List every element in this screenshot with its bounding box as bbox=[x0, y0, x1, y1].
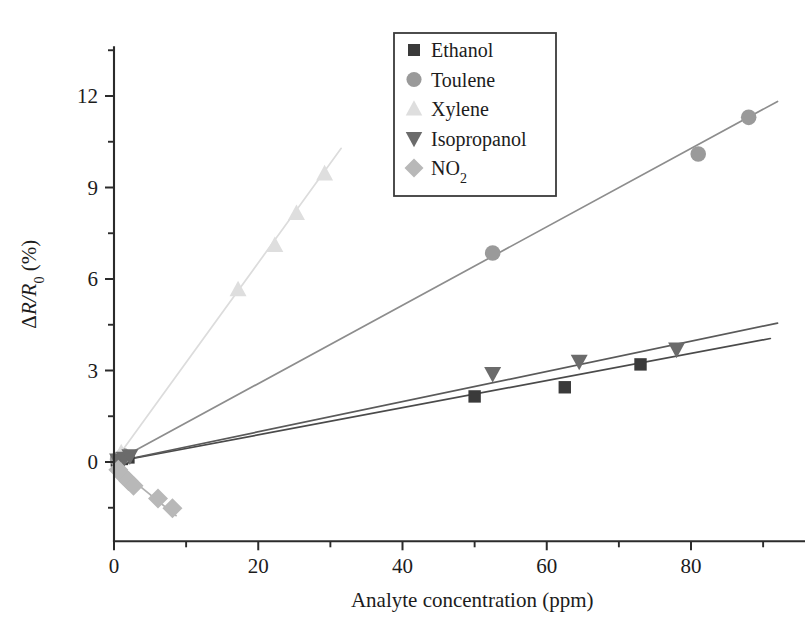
legend-label: Ethanol bbox=[431, 39, 494, 61]
series-isopropanol bbox=[109, 343, 685, 470]
y-tick-label-3: 9 bbox=[88, 176, 99, 200]
x-tick-label-3: 60 bbox=[536, 554, 557, 578]
y-tick-label-0: 0 bbox=[88, 450, 99, 474]
series-no2 bbox=[108, 460, 182, 519]
y-tick-label-2: 6 bbox=[88, 267, 99, 291]
legend-marker-square bbox=[408, 44, 420, 56]
y-tick-label-4: 12 bbox=[77, 84, 98, 108]
data-point-isopropanol-3 bbox=[484, 367, 501, 383]
data-point-toulene-2 bbox=[485, 245, 501, 261]
data-point-xylene-4 bbox=[316, 165, 333, 181]
data-point-ethanol-5 bbox=[634, 358, 646, 370]
x-tick-label-1: 20 bbox=[248, 554, 269, 578]
figure-root: 036912020406080Analyte concentration (pp… bbox=[0, 0, 805, 618]
data-point-xylene-3 bbox=[288, 204, 305, 220]
x-tick-label-0: 0 bbox=[109, 554, 120, 578]
data-point-toulene-4 bbox=[741, 110, 757, 126]
fit-line-ethanol bbox=[114, 338, 770, 462]
fit-line-xylene bbox=[114, 148, 341, 462]
legend-label: Toulene bbox=[431, 69, 495, 91]
x-axis-title: Analyte concentration (ppm) bbox=[351, 588, 594, 612]
y-tick-label-1: 3 bbox=[88, 359, 99, 383]
scatter-chart: 036912020406080Analyte concentration (pp… bbox=[0, 0, 805, 618]
data-point-no2-5 bbox=[162, 498, 182, 518]
data-point-ethanol-3 bbox=[468, 390, 480, 402]
x-tick-label-2: 40 bbox=[392, 554, 413, 578]
y-axis-title-text: ΔR/R0 (%) bbox=[17, 240, 47, 329]
axis-labels-layer: 036912020406080Analyte concentration (pp… bbox=[17, 84, 702, 612]
y-axis-title: ΔR/R0 (%) bbox=[17, 240, 47, 329]
x-tick-label-4: 80 bbox=[681, 554, 702, 578]
legend-marker-circle bbox=[406, 72, 421, 87]
data-point-xylene-2 bbox=[266, 236, 283, 252]
legend-label: Xylene bbox=[431, 98, 489, 121]
legend-label: Isopropanol bbox=[431, 128, 527, 151]
legend: EthanolTouleneXyleneIsopropanolNO2 bbox=[394, 33, 556, 196]
data-point-toulene-3 bbox=[690, 146, 706, 162]
data-point-ethanol-4 bbox=[559, 381, 571, 393]
